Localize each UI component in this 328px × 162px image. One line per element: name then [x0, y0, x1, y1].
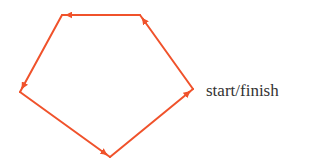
start-finish-label: start/finish [206, 81, 279, 100]
arrowhead-icon [22, 83, 25, 88]
arrowhead-icon [102, 151, 107, 155]
path-edges [20, 15, 193, 157]
edge-top-left-to-left [20, 15, 62, 92]
edge-start-to-top-right [140, 15, 193, 89]
arrowhead-icon [142, 18, 145, 23]
pentagon-path-diagram: start/finish [0, 0, 328, 162]
edge-bottom-to-start [110, 89, 193, 157]
edge-left-to-bottom [20, 92, 110, 157]
arrowhead-icon [185, 92, 190, 96]
